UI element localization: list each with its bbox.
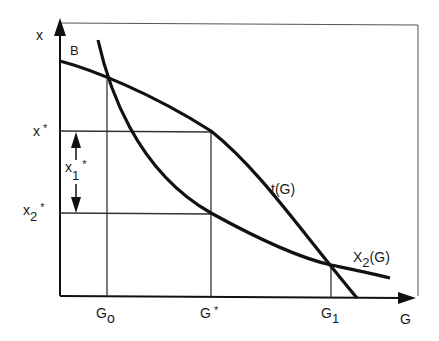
x-axis-arrow-icon xyxy=(398,292,416,304)
point-b-label: B xyxy=(70,43,79,58)
guide-x2star xyxy=(60,213,211,214)
tick-label-xstar: x* xyxy=(33,122,48,139)
curve-label-x2: X2(G) xyxy=(353,249,390,270)
tick-label-x2star: x2* xyxy=(23,201,45,224)
y-axis-label: x xyxy=(36,27,43,43)
tick-label-gstar: G* xyxy=(200,304,219,321)
guide-xstar xyxy=(60,131,211,132)
frame-top xyxy=(60,23,418,25)
interval-label-x1star: x1* xyxy=(65,158,87,183)
interval-arrow-down-icon xyxy=(71,197,81,213)
tick-label-g0: Go xyxy=(96,305,115,326)
curve-x2-of-g xyxy=(98,40,390,278)
curve-t-of-g xyxy=(60,61,357,298)
x-axis xyxy=(60,296,404,298)
x-axis-label: G xyxy=(400,311,411,327)
curve-label-t: t(G) xyxy=(271,181,295,197)
interval-arrow-up-icon xyxy=(71,132,81,148)
y-axis-arrow-icon xyxy=(54,18,66,36)
diagram-canvas: x B G x* x2* x1* Go G* G1 t(G) X2(G) xyxy=(0,0,439,341)
tick-label-g1: G1 xyxy=(321,305,339,326)
